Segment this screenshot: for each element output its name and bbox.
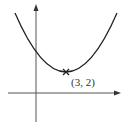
y-axis-arrow-icon — [34, 4, 39, 11]
vertex-label: (3, 2) — [71, 76, 95, 89]
parabola-curve — [15, 13, 117, 72]
x-axis-arrow-icon — [114, 91, 121, 96]
parabola-chart: (3, 2) — [0, 0, 128, 128]
